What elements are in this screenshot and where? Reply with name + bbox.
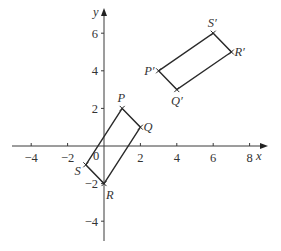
y-axis-label: y — [91, 5, 99, 19]
y-tick-label: 2 — [92, 102, 98, 116]
vertex-label: P — [116, 91, 125, 105]
vertex-cross-icon — [211, 31, 216, 36]
x-tick-label: −4 — [25, 151, 39, 165]
vertex-label: Q′ — [171, 94, 183, 108]
vertex-label: S — [75, 164, 82, 178]
y-tick-label: 6 — [92, 27, 98, 41]
vertex-cross-icon — [138, 125, 143, 130]
vertex-cross-icon — [120, 106, 125, 111]
vertex-label: S′ — [208, 16, 217, 30]
shape-pqrs-image: P′Q′R′S′ — [143, 16, 245, 107]
coordinate-diagram: x y 0 −4−22468−4−2246 PQRSP′Q′R′S′ — [0, 0, 281, 251]
vertex-cross-icon — [229, 50, 234, 55]
y-tick-label: −2 — [85, 177, 98, 191]
quadrilateral — [159, 33, 232, 89]
axes: x y 0 — [12, 5, 268, 241]
ticks: −4−22468−4−2246 — [25, 27, 253, 229]
x-axis-label: x — [255, 149, 262, 163]
y-tick-label: 4 — [92, 64, 99, 78]
x-tick-label: −2 — [61, 151, 74, 165]
vertex-label: Q — [143, 120, 152, 134]
y-axis-arrow-icon — [101, 8, 107, 16]
vertex-label: R — [105, 188, 114, 202]
shapes: PQRSP′Q′R′S′ — [75, 16, 245, 201]
vertex-cross-icon — [156, 68, 161, 73]
vertex-label: R′ — [233, 45, 245, 59]
y-tick-label: −4 — [85, 215, 99, 229]
x-tick-label: 4 — [174, 151, 181, 165]
vertex-cross-icon — [83, 162, 88, 167]
vertex-label: P′ — [143, 64, 155, 78]
vertex-cross-icon — [174, 87, 179, 92]
x-tick-label: 2 — [137, 151, 143, 165]
x-tick-label: 6 — [210, 151, 216, 165]
x-tick-label: 8 — [246, 151, 252, 165]
